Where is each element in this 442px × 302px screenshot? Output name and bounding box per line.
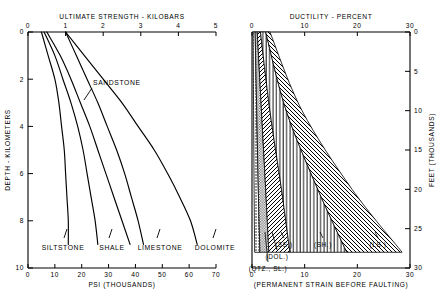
right-y-tick-label: 10 bbox=[414, 107, 423, 114]
left-y-tick-label: 8 bbox=[20, 217, 24, 224]
annotation-qtzsl: (QTZ., SL.) bbox=[249, 265, 288, 273]
left-top-tick-label: 0 bbox=[26, 22, 30, 29]
left-bottom-tick-label: 0 bbox=[26, 271, 30, 278]
annotation-siltstone: SILTSTONE bbox=[42, 244, 85, 251]
left-y-tick-label: 4 bbox=[20, 123, 24, 130]
annotation-sh: (SH.) bbox=[314, 241, 332, 249]
right-y-tick-label: 20 bbox=[414, 186, 423, 193]
right-bottom-tick-label: 20 bbox=[353, 271, 362, 278]
right-y-tick-label: 30 bbox=[414, 264, 423, 271]
left-top-tick-label: 3 bbox=[139, 22, 143, 29]
right-top-tick-label: 0 bbox=[250, 22, 254, 29]
right-y-tick-label: 5 bbox=[414, 68, 418, 75]
right-y-tick-label: 25 bbox=[414, 225, 423, 232]
leader-siltstone bbox=[64, 229, 67, 238]
left-top-tick-label: 4 bbox=[176, 22, 180, 29]
left-y-tick-label: 0 bbox=[20, 28, 24, 35]
leader-sandstone bbox=[84, 88, 92, 100]
annotation-sandstone: SANDSTONE bbox=[93, 79, 141, 86]
annotation-dolomite: DOLOMITE bbox=[195, 244, 235, 251]
left-y-tick-label: 10 bbox=[15, 264, 24, 271]
left-bottom-tick-label: 60 bbox=[185, 271, 194, 278]
curve-dolomite bbox=[66, 32, 198, 244]
figure-container: 012345ULTIMATE STRENGTH - KILOBARS010203… bbox=[0, 0, 442, 302]
panel-ductility: 00101020203030DUCTILITY - PERCENT(PERMAN… bbox=[249, 13, 436, 289]
leader-limestone bbox=[157, 229, 160, 238]
left-y-axis-title: DEPTH - KILOMETERS bbox=[4, 109, 11, 191]
right-top-tick-label: 10 bbox=[300, 22, 309, 29]
right-top-tick-label: 30 bbox=[406, 22, 415, 29]
left-bottom-tick-label: 30 bbox=[104, 271, 113, 278]
right-top-axis-title: DUCTILITY - PERCENT bbox=[290, 13, 373, 20]
left-bottom-tick-label: 10 bbox=[51, 271, 60, 278]
figure-svg: 012345ULTIMATE STRENGTH - KILOBARS010203… bbox=[0, 0, 442, 302]
right-bottom-tick-label: 30 bbox=[406, 271, 415, 278]
annotation-ss: (SS.) bbox=[275, 241, 293, 249]
annotation-limestone: LIMESTONE bbox=[138, 244, 183, 251]
left-top-tick-label: 5 bbox=[214, 22, 218, 29]
right-bottom-tick-label: 0 bbox=[250, 271, 254, 278]
left-bottom-tick-label: 50 bbox=[158, 271, 167, 278]
left-y-tick-label: 2 bbox=[20, 76, 24, 83]
right-y-axis-title: FEET (THOUSANDS) bbox=[428, 113, 436, 187]
left-top-tick-label: 2 bbox=[101, 22, 105, 29]
left-bottom-tick-label: 70 bbox=[212, 271, 221, 278]
leader-dolomite bbox=[213, 229, 216, 238]
leader-shale bbox=[109, 229, 112, 238]
right-y-tick-label: 15 bbox=[414, 146, 423, 153]
right-top-tick-label: 20 bbox=[353, 22, 362, 29]
left-bottom-tick-label: 40 bbox=[131, 271, 140, 278]
right-bottom-tick-label: 10 bbox=[300, 271, 309, 278]
annotation-shale: SHALE bbox=[99, 244, 124, 251]
left-y-tick-label: 6 bbox=[20, 170, 24, 177]
annotation-dol: (DOL.) bbox=[266, 253, 289, 261]
annotation-ls: (LS.) bbox=[370, 241, 387, 249]
left-top-axis-title: ULTIMATE STRENGTH - KILOBARS bbox=[59, 13, 184, 20]
left-bottom-tick-label: 20 bbox=[77, 271, 86, 278]
right-y-tick-label: 0 bbox=[414, 28, 418, 35]
curve-limestone bbox=[66, 32, 144, 244]
right-bottom-axis-title: (PERMANENT STRAIN BEFORE FAULTING) bbox=[254, 281, 409, 289]
left-top-tick-label: 1 bbox=[63, 22, 67, 29]
curve-sandstone bbox=[47, 32, 130, 244]
curve-shale bbox=[44, 32, 98, 244]
panel-ultimate-strength: 012345ULTIMATE STRENGTH - KILOBARS010203… bbox=[4, 13, 235, 289]
left-bottom-axis-title: PSI (THOUSANDS) bbox=[88, 281, 155, 289]
